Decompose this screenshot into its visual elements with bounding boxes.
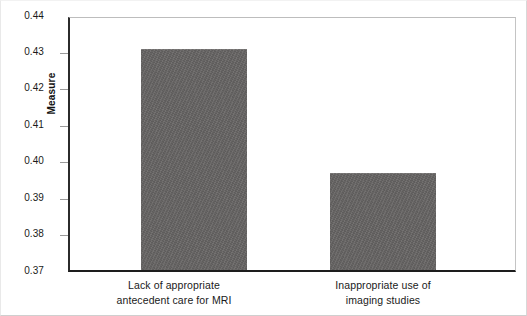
y-tick-label: 0.42 xyxy=(24,82,44,93)
y-tick-mark xyxy=(60,89,68,90)
y-tick-label: 0.43 xyxy=(24,46,44,57)
y-tick-label: 0.38 xyxy=(24,228,44,239)
y-tick-label: 0.41 xyxy=(24,119,44,130)
bar-chart-figure: Measure 0.44 0.43 0.42 0.41 0.40 0.39 0.… xyxy=(0,0,527,316)
y-tick-0.43: 0.43 xyxy=(0,53,68,54)
y-tick-label: 0.40 xyxy=(24,155,44,166)
x-category-label-0-line1: Lack of appropriate xyxy=(128,279,220,291)
y-tick-0.38: 0.38 xyxy=(0,235,68,236)
x-category-label-1-line1: Inappropriate use of xyxy=(335,279,430,291)
y-tick-mark xyxy=(60,199,68,200)
y-tick-label: 0.44 xyxy=(24,10,44,21)
x-category-label-0: Lack of appropriate antecedent care for … xyxy=(84,278,264,308)
bar-lack-of-appropriate-antecedent-care-for-mri[interactable] xyxy=(141,49,247,270)
y-tick-mark xyxy=(60,53,68,54)
y-tick-0.44: 0.44 xyxy=(0,17,68,18)
y-tick-mark xyxy=(60,235,68,236)
x-category-label-1: Inappropriate use of imaging studies xyxy=(293,278,473,308)
x-category-label-0-line2: antecedent care for MRI xyxy=(84,293,264,308)
y-tick-label: 0.37 xyxy=(24,265,44,276)
y-tick-0.40: 0.40 xyxy=(0,162,68,163)
x-category-label-1-line2: imaging studies xyxy=(293,293,473,308)
y-tick-label: 0.39 xyxy=(24,192,44,203)
y-tick-0.42: 0.42 xyxy=(0,89,68,90)
y-tick-0.41: 0.41 xyxy=(0,126,68,127)
y-tick-mark xyxy=(60,126,68,127)
y-tick-0.37: 0.37 xyxy=(0,272,68,273)
y-axis-title: Measure xyxy=(46,34,57,154)
y-tick-0.39: 0.39 xyxy=(0,199,68,200)
bar-inappropriate-use-of-imaging-studies[interactable] xyxy=(330,173,436,270)
y-tick-mark xyxy=(60,162,68,163)
plot-area xyxy=(68,17,516,272)
